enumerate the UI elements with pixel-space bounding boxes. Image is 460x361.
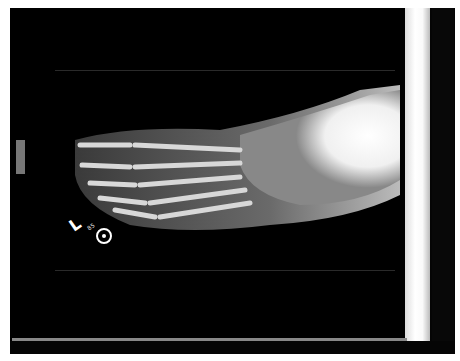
film-line-bottom xyxy=(55,270,395,271)
film-line-top xyxy=(55,70,395,71)
film-side-tab xyxy=(16,140,25,174)
right-border xyxy=(432,8,454,354)
bottom-border xyxy=(10,341,455,354)
side-marker: L 85 xyxy=(70,215,120,250)
foot-radiograph xyxy=(70,85,400,235)
circle-marker-icon xyxy=(96,228,112,244)
film-edge-strip xyxy=(405,8,430,346)
side-marker-text: 85 xyxy=(86,221,96,231)
